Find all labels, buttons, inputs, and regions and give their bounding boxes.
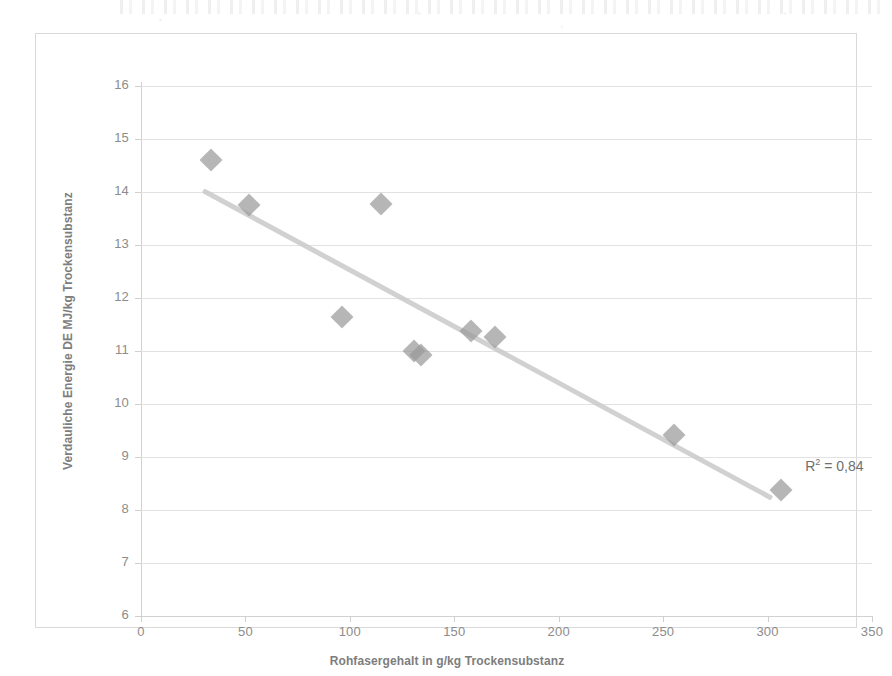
r-squared-value: = 0,84 <box>820 458 863 474</box>
data-point-marker <box>330 305 353 328</box>
plot-area <box>141 86 872 616</box>
y-tick-label-14: 14 <box>89 183 129 198</box>
x-axis-line <box>141 616 872 617</box>
y-tick-label-8: 8 <box>89 501 129 516</box>
y-tick-label-7: 7 <box>89 554 129 569</box>
y-tick-label-15: 15 <box>89 130 129 145</box>
x-tick-mark-200 <box>559 616 560 622</box>
data-point-marker <box>200 149 223 172</box>
x-tick-label-150: 150 <box>430 624 478 639</box>
data-point-marker <box>770 479 793 502</box>
x-tick-mark-100 <box>350 616 351 622</box>
x-tick-mark-250 <box>663 616 664 622</box>
y-tick-label-9: 9 <box>89 448 129 463</box>
trendline <box>201 189 773 501</box>
x-tick-mark-150 <box>454 616 455 622</box>
y-tick-label-13: 13 <box>89 236 129 251</box>
x-tick-label-300: 300 <box>744 624 792 639</box>
x-tick-label-100: 100 <box>326 624 374 639</box>
y-tick-label-16: 16 <box>89 77 129 92</box>
y-tick-label-10: 10 <box>89 395 129 410</box>
x-tick-mark-300 <box>768 616 769 622</box>
chart-container: 678910111213141516 050100150200250300350… <box>35 33 857 628</box>
y-tick-label-11: 11 <box>89 342 129 357</box>
x-tick-label-0: 0 <box>117 624 165 639</box>
x-tick-label-200: 200 <box>535 624 583 639</box>
y-tick-label-6: 6 <box>89 607 129 622</box>
r-squared-base: R <box>805 458 815 474</box>
x-tick-mark-350 <box>872 616 873 622</box>
scan-artifact-top-line <box>120 0 880 14</box>
y-axis-title: Verdauliche Energie DE MJ/kg Trockensubs… <box>61 71 75 591</box>
r-squared-annotation: R2 = 0,84 <box>805 457 863 474</box>
x-tick-label-250: 250 <box>639 624 687 639</box>
x-tick-label-350: 350 <box>848 624 892 639</box>
x-axis-title: Rohfasergehalt in g/kg Trockensubstanz <box>36 654 858 668</box>
y-tick-label-12: 12 <box>89 289 129 304</box>
data-point-marker <box>370 192 393 215</box>
x-tick-mark-0 <box>141 616 142 622</box>
x-tick-label-50: 50 <box>221 624 269 639</box>
x-tick-mark-50 <box>245 616 246 622</box>
